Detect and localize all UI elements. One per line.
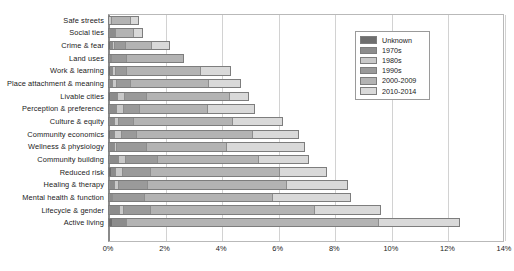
category-label: Community building	[0, 155, 104, 164]
bar-segment-1990s[interactable]	[119, 181, 148, 188]
bar-segment-2000-2009[interactable]	[127, 219, 379, 226]
bar-segment-1990s[interactable]	[117, 143, 146, 150]
bar-segment-2000-2009[interactable]	[147, 143, 227, 150]
bar-segment-2010-2014[interactable]	[152, 42, 168, 49]
bar-segment-2010-2014[interactable]	[131, 17, 138, 24]
stacked-bar[interactable]	[108, 54, 184, 63]
stacked-bar[interactable]	[108, 16, 139, 25]
bar-segment-1970s[interactable]	[109, 29, 116, 36]
bar-segment-2000-2009[interactable]	[158, 156, 259, 163]
bar-segment-2000-2009[interactable]	[112, 17, 132, 24]
bar-segment-1990s[interactable]	[126, 156, 158, 163]
bar-segment-1970s[interactable]	[113, 219, 127, 226]
bar-segment-1990s[interactable]	[125, 93, 147, 100]
bar-segment-2010-2014[interactable]	[209, 80, 240, 87]
stacked-bar[interactable]	[108, 142, 305, 151]
legend-swatch-icon	[360, 36, 377, 43]
bar-row: Place attachment & meaning	[0, 77, 514, 90]
category-label: Place attachment & meaning	[0, 79, 104, 88]
bar-segment-1980s[interactable]	[119, 156, 126, 163]
legend-swatch-icon	[360, 47, 377, 54]
stacked-bar[interactable]	[108, 193, 351, 202]
bar-segment-1970s[interactable]	[110, 156, 118, 163]
bar-segment-1990s[interactable]	[124, 206, 151, 213]
bar-segment-2010-2014[interactable]	[134, 29, 142, 36]
stacked-bar[interactable]	[108, 155, 309, 164]
category-label: Mental health & function	[0, 193, 104, 202]
bar-row: Active living	[0, 217, 514, 230]
bar-segment-2010-2014[interactable]	[287, 181, 347, 188]
bar-segment-1990s[interactable]	[116, 67, 127, 74]
bar-segment-2010-2014[interactable]	[208, 105, 254, 112]
bar-segment-2000-2009[interactable]	[134, 118, 233, 125]
stacked-bar[interactable]	[108, 79, 241, 88]
bar-segment-1990s[interactable]	[123, 168, 151, 175]
bar-row: Safe streets	[0, 14, 514, 27]
bar-segment-2010-2014[interactable]	[315, 206, 380, 213]
legend-item[interactable]: 1970s	[360, 45, 425, 55]
stacked-bar[interactable]	[108, 180, 348, 189]
bar-segment-2010-2014[interactable]	[230, 93, 248, 100]
stacked-bar[interactable]	[108, 218, 460, 227]
category-label: Work & learning	[0, 66, 104, 75]
bar-segment-1980s[interactable]	[117, 105, 124, 112]
stacked-bar[interactable]	[108, 92, 249, 101]
bar-segment-2000-2009[interactable]	[145, 194, 273, 201]
bar-segment-2000-2009[interactable]	[140, 105, 208, 112]
bar-segment-2010-2014[interactable]	[273, 194, 350, 201]
bar-row: Community building	[0, 153, 514, 166]
stacked-bar[interactable]	[108, 205, 381, 214]
bar-segment-2010-2014[interactable]	[227, 143, 304, 150]
bar-segment-2000-2009[interactable]	[148, 181, 287, 188]
stacked-bar[interactable]	[108, 117, 283, 126]
bar-segment-1990s[interactable]	[122, 131, 137, 138]
stacked-bar[interactable]	[108, 130, 299, 139]
bar-segment-2000-2009[interactable]	[127, 55, 182, 62]
stacked-bar[interactable]	[108, 104, 255, 113]
bar-segment-2010-2014[interactable]	[379, 219, 459, 226]
bar-row: Healing & therapy	[0, 179, 514, 192]
legend-item[interactable]: 1980s	[360, 55, 425, 65]
bar-segment-2000-2009[interactable]	[147, 93, 229, 100]
bar-segment-2000-2009[interactable]	[151, 168, 280, 175]
bar-segment-1990s[interactable]	[113, 194, 145, 201]
bar-segment-2010-2014[interactable]	[253, 131, 298, 138]
category-label: Active living	[0, 218, 104, 227]
bar-segment-2000-2009[interactable]	[137, 131, 253, 138]
bar-segment-1980s[interactable]	[115, 131, 122, 138]
legend-item[interactable]: 1990s	[360, 66, 425, 76]
category-label: Social ties	[0, 28, 104, 37]
bar-segment-1990s[interactable]	[124, 105, 139, 112]
stacked-bar[interactable]	[108, 167, 327, 176]
bar-segment-2000-2009[interactable]	[151, 206, 315, 213]
bar-row: Community economics	[0, 128, 514, 141]
bar-row: Perception & preference	[0, 103, 514, 116]
bar-segment-2010-2014[interactable]	[280, 168, 326, 175]
bar-segment-1990s[interactable]	[112, 55, 127, 62]
bar-segment-1970s[interactable]	[109, 105, 117, 112]
bar-segment-2000-2009[interactable]	[116, 29, 135, 36]
legend-label: Unknown	[382, 36, 412, 45]
bar-segment-2010-2014[interactable]	[259, 156, 308, 163]
bar-segment-1990s[interactable]	[115, 42, 126, 49]
bar-segment-1970s[interactable]	[111, 93, 118, 100]
stacked-bar[interactable]	[108, 66, 231, 75]
legend-item[interactable]: Unknown	[360, 35, 425, 45]
bar-row: Mental health & function	[0, 191, 514, 204]
bar-segment-1970s[interactable]	[110, 206, 120, 213]
legend-item[interactable]: 2010-2014	[360, 86, 425, 96]
stacked-bar[interactable]	[108, 41, 170, 50]
legend-label: 2010-2014	[382, 87, 416, 96]
bar-segment-2010-2014[interactable]	[233, 118, 282, 125]
bar-segment-1990s[interactable]	[117, 80, 131, 87]
bar-segment-2000-2009[interactable]	[131, 80, 209, 87]
stacked-bar[interactable]	[108, 28, 143, 37]
bar-segment-2000-2009[interactable]	[126, 42, 152, 49]
bar-segment-2010-2014[interactable]	[201, 67, 230, 74]
legend-item[interactable]: 2000-2009	[360, 76, 425, 86]
bar-segment-1990s[interactable]	[119, 118, 134, 125]
bar-segment-1980s[interactable]	[118, 93, 125, 100]
bar-segment-2000-2009[interactable]	[127, 67, 201, 74]
bar-segment-1980s[interactable]	[116, 168, 123, 175]
category-label: Livable cities	[0, 92, 104, 101]
